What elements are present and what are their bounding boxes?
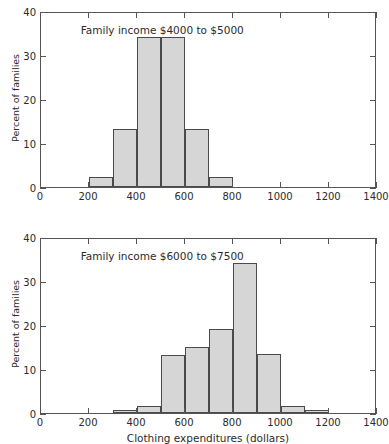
x-tick-label: 400 — [126, 417, 145, 428]
x-tick — [328, 182, 329, 188]
y-tick — [40, 12, 46, 13]
histogram-bar — [137, 37, 161, 187]
x-tick-label: 800 — [222, 191, 241, 202]
x-tick — [232, 408, 233, 414]
histogram-bar — [233, 263, 257, 413]
y-tick-right — [370, 100, 376, 101]
x-tick-label: 0 — [37, 417, 43, 428]
x-tick-label: 1000 — [267, 191, 292, 202]
x-tick-label: 600 — [174, 417, 193, 428]
x-tick-top — [328, 12, 329, 18]
x-tick-top — [280, 238, 281, 244]
histogram-bar — [209, 329, 233, 413]
x-tick — [184, 182, 185, 188]
x-tick — [280, 408, 281, 414]
x-tick-top — [88, 238, 89, 244]
y-tick — [40, 238, 46, 239]
histogram-bar — [161, 355, 185, 413]
y-axis-label-top: Percent of families — [10, 54, 21, 142]
x-tick-top — [376, 12, 377, 18]
y-tick — [40, 100, 46, 101]
bar-series-top — [41, 13, 375, 187]
x-tick — [376, 408, 377, 414]
x-tick-label: 400 — [126, 191, 145, 202]
annotation-bottom: Family income $6000 to $7500 — [81, 250, 244, 262]
y-axis-label-bottom: Percent of families — [10, 280, 21, 368]
annotation-top: Family income $4000 to $5000 — [81, 24, 244, 36]
x-tick — [136, 182, 137, 188]
x-tick-label: 200 — [78, 417, 97, 428]
x-tick-top — [328, 238, 329, 244]
histogram-bar — [209, 177, 233, 187]
x-tick-top — [88, 12, 89, 18]
y-tick-right — [370, 188, 376, 189]
histogram-bar — [137, 406, 161, 413]
y-tick — [40, 414, 46, 415]
histogram-bar — [257, 354, 281, 413]
histogram-bar — [305, 410, 329, 413]
x-tick — [184, 408, 185, 414]
x-tick — [280, 182, 281, 188]
x-tick-label: 600 — [174, 191, 193, 202]
y-tick-right — [370, 326, 376, 327]
histogram-bar — [89, 177, 113, 187]
x-tick-label: 0 — [37, 191, 43, 202]
plot-area-top — [40, 12, 376, 188]
x-tick-label: 1200 — [315, 191, 340, 202]
y-tick — [40, 326, 46, 327]
histogram-bar — [185, 129, 209, 187]
histogram-bar — [113, 410, 137, 413]
histogram-panel-bottom: 0200400600800100012001400010203040 Famil… — [0, 214, 383, 444]
y-tick-right — [370, 414, 376, 415]
y-tick-label: 40 — [14, 233, 36, 244]
x-tick-label: 1400 — [363, 417, 388, 428]
histogram-bar — [281, 406, 305, 413]
y-tick-right — [370, 370, 376, 371]
y-tick-label: 0 — [14, 409, 36, 420]
x-tick — [88, 182, 89, 188]
x-tick-label: 800 — [222, 417, 241, 428]
x-tick-top — [232, 238, 233, 244]
x-tick-top — [280, 12, 281, 18]
x-tick — [88, 408, 89, 414]
y-tick — [40, 188, 46, 189]
y-tick — [40, 144, 46, 145]
histogram-bar — [185, 347, 209, 413]
x-tick — [328, 408, 329, 414]
x-tick-top — [184, 12, 185, 18]
x-tick-top — [184, 238, 185, 244]
y-tick-label: 0 — [14, 183, 36, 194]
y-tick — [40, 370, 46, 371]
y-tick-right — [370, 12, 376, 13]
y-tick-label: 40 — [14, 7, 36, 18]
x-tick-label: 1200 — [315, 417, 340, 428]
x-tick — [376, 182, 377, 188]
y-tick — [40, 282, 46, 283]
y-tick-right — [370, 144, 376, 145]
x-tick-top — [232, 12, 233, 18]
histogram-bar — [161, 37, 185, 187]
x-axis-label: Clothing expenditures (dollars) — [127, 432, 289, 444]
x-tick-label: 200 — [78, 191, 97, 202]
x-tick-top — [376, 238, 377, 244]
y-tick-right — [370, 56, 376, 57]
histogram-bar — [113, 129, 137, 187]
x-tick-label: 1400 — [363, 191, 388, 202]
histogram-panel-top: 0200400600800100012001400010203040 Famil… — [0, 0, 383, 214]
y-tick — [40, 56, 46, 57]
y-tick-right — [370, 282, 376, 283]
plot-area-bottom — [40, 238, 376, 414]
x-tick — [136, 408, 137, 414]
x-tick-top — [136, 12, 137, 18]
x-tick — [232, 182, 233, 188]
bar-series-bottom — [41, 239, 375, 413]
x-tick-top — [136, 238, 137, 244]
x-tick-label: 1000 — [267, 417, 292, 428]
y-tick-right — [370, 238, 376, 239]
